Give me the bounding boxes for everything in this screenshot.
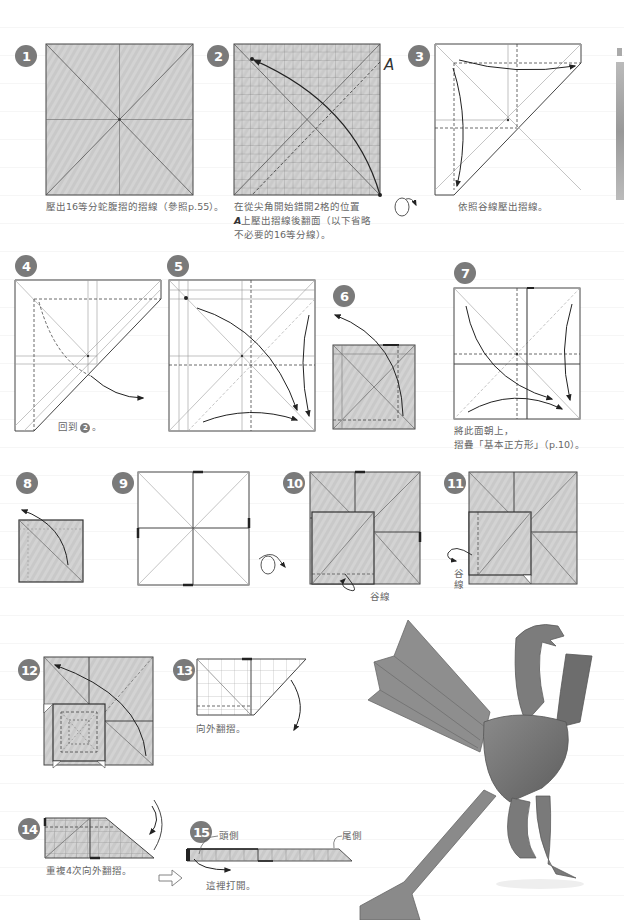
step-11-diagram xyxy=(468,471,582,591)
step-7-caption-line2: 摺疊「基本正方形」（p.10）。 xyxy=(454,438,585,452)
step-badge: 2 xyxy=(207,45,229,67)
fold-arrow-icon xyxy=(444,545,474,569)
point-a-label: A xyxy=(384,56,394,74)
step-1-diagram xyxy=(46,44,194,196)
step-badge: 3 xyxy=(408,45,430,67)
head-side-label: 頭側 xyxy=(219,828,239,842)
step-badge: 10 xyxy=(283,472,305,494)
step-badge: 5 xyxy=(167,255,189,277)
step-9-diagram xyxy=(137,471,251,589)
step-6-diagram xyxy=(333,310,419,432)
caption-end: 。 xyxy=(92,421,102,432)
side-thumb-tab xyxy=(616,62,624,200)
step-badge: 7 xyxy=(454,262,476,284)
step-3-diagram xyxy=(435,44,585,196)
caption-text: 上壓出摺線後翻面（以下省略 xyxy=(241,215,371,226)
step-badge: 13 xyxy=(173,659,195,681)
step-badge: 6 xyxy=(333,285,355,307)
step-15-caption: 這裡打開。 xyxy=(206,879,256,893)
step-2-caption-line1: 在從尖角開始錯開2格的位置 xyxy=(234,200,360,214)
step-2-caption-line3: 不必要的16等分線）。 xyxy=(234,228,331,242)
step-13-caption: 向外翻摺。 xyxy=(196,722,246,736)
step-badge: 14 xyxy=(18,818,40,840)
side-thumb-mark xyxy=(617,48,622,56)
tail-side-label: 尾側 xyxy=(342,828,362,842)
step-1-caption: 壓出16等分蛇腹摺的摺線（參照p.55）。 xyxy=(46,200,224,214)
next-arrow-icon xyxy=(158,869,184,887)
step-3-caption: 依照谷線壓出摺線。 xyxy=(458,200,548,214)
step-2-diagram xyxy=(234,44,384,196)
step-5-diagram xyxy=(169,280,317,432)
step-badge: 11 xyxy=(444,472,466,494)
step-badge: 8 xyxy=(16,472,38,494)
step-badge: 9 xyxy=(112,472,134,494)
step-7-diagram xyxy=(454,288,584,423)
step-4-caption: 回到2。 xyxy=(58,420,102,434)
step-12-diagram xyxy=(43,656,155,768)
step-13-diagram xyxy=(196,658,312,758)
step-2-caption-line2: A上壓出摺線後翻面（以下省略 xyxy=(234,214,371,228)
step-badge: 4 xyxy=(15,255,37,277)
step-14-caption: 重複4次向外翻摺。 xyxy=(46,864,132,878)
turn-over-icon xyxy=(255,553,291,579)
step-7-caption-line1: 將此面朝上， xyxy=(454,424,514,438)
step-4-diagram xyxy=(15,280,163,432)
step-badge: 12 xyxy=(18,659,40,681)
caption-text: 回到 xyxy=(58,421,78,432)
open-arrow-icon xyxy=(190,858,240,878)
step-ref-badge: 2 xyxy=(80,423,90,433)
origami-phoenix-photo xyxy=(360,612,624,920)
turn-over-icon xyxy=(392,195,422,217)
valley-fold-label: 谷線 xyxy=(454,568,464,590)
repeat-fold-arrows-icon xyxy=(142,798,172,854)
valley-fold-label: 谷線 xyxy=(370,589,390,603)
step-10-diagram xyxy=(309,471,423,591)
step-8-diagram xyxy=(14,505,86,585)
step-badge: 1 xyxy=(15,45,37,67)
